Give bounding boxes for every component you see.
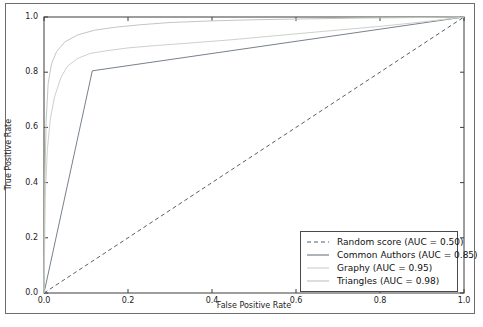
legend-line-swatch [306,276,330,286]
legend-line-swatch [306,237,330,247]
y-tick-label: 0.2 [4,233,38,243]
legend: Random score (AUC = 0.50)Common Authors … [300,231,458,292]
legend-item-label: Triangles (AUC = 0.98) [337,276,439,286]
roc-figure: 0.00.20.40.60.81.0 0.00.20.40.60.81.0 Fa… [0,0,483,327]
legend-item: Triangles (AUC = 0.98) [306,274,452,287]
y-axis-label: True Positive Rate [4,95,13,215]
legend-item-label: Graphy (AUC = 0.95) [337,263,432,273]
legend-item: Graphy (AUC = 0.95) [306,261,452,274]
x-axis-label: False Positive Rate [44,301,464,310]
legend-item: Random score (AUC = 0.50) [306,235,452,248]
legend-item-label: Common Authors (AUC = 0.85) [337,250,478,260]
legend-item-label: Random score (AUC = 0.50) [337,237,464,247]
legend-line-swatch [306,263,330,273]
y-tick-label: 0.0 [4,288,38,298]
legend-line-swatch [306,250,330,260]
legend-item: Common Authors (AUC = 0.85) [306,248,452,261]
y-tick-label: 0.8 [4,67,38,77]
y-tick-label: 1.0 [4,12,38,22]
